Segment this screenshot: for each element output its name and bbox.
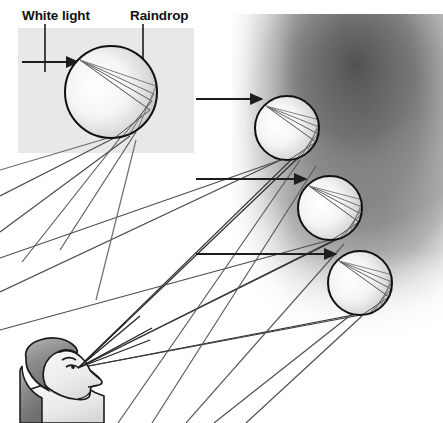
label-raindrop: Raindrop <box>130 8 188 23</box>
label-white-light: White light <box>22 8 90 23</box>
observer-pupil <box>71 365 75 369</box>
rainbow-formation-diagram: White light Raindrop <box>0 0 443 423</box>
